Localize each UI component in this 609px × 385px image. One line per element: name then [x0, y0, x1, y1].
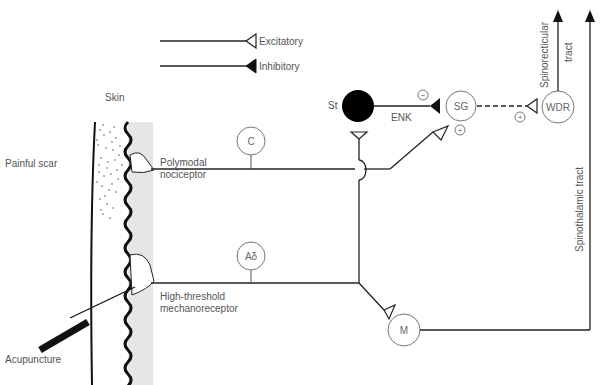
pain-pathway-diagram: Excitatory Inhibitory Skin Pai	[0, 0, 609, 385]
highthreshold-label-2: mechanoreceptor	[160, 303, 238, 314]
excitatory-synapse-icon	[246, 34, 256, 48]
fiber-crossover-hop	[359, 160, 366, 180]
skin-label: Skin	[105, 92, 124, 103]
neuron-m-label: M	[400, 325, 408, 336]
m-excitatory-synapse-icon	[384, 305, 395, 319]
polymodal-label-2: nociceptor	[160, 169, 207, 180]
spinothalamic-label: Spinothalamic tract	[574, 167, 585, 252]
neuron-st	[342, 90, 374, 122]
enk-inhibitory-synapse-icon	[430, 98, 440, 114]
spinothalamic-arrow-icon	[585, 10, 595, 22]
acupuncture-needle	[70, 287, 135, 318]
spinoreticular-label-1: Spinorecticular	[539, 21, 550, 88]
neuron-c-label: C	[247, 136, 254, 147]
polymodal-label-1: Polymodal	[160, 157, 207, 168]
scar-dots	[96, 124, 122, 218]
inhibitory-synapse-icon	[246, 59, 256, 73]
acupuncture-needle-handle	[40, 322, 88, 350]
spinoreticular-arrow-icon	[553, 10, 563, 22]
wdr-excitatory-synapse-icon	[527, 99, 537, 113]
scar-boundary-line	[91, 122, 95, 385]
legend-excitatory-label: Excitatory	[259, 36, 303, 47]
highthreshold-label-1: High-threshold	[160, 291, 225, 302]
neuron-wdr-label: WDR	[546, 102, 570, 113]
st-excitatory-synapse-icon	[351, 132, 367, 139]
acupuncture-label: Acupuncture	[5, 354, 62, 365]
legend-inhibitory-label: Inhibitory	[259, 61, 300, 72]
neuron-sg-label: SG	[454, 101, 469, 112]
c-fiber-excitatory-synapse-icon	[433, 126, 448, 140]
plus-sign-wdr: +	[518, 113, 523, 122]
legend: Excitatory Inhibitory	[160, 34, 303, 73]
spinoreticular-label-2: tract	[563, 42, 574, 62]
st-neuron: St ENK −	[328, 90, 440, 123]
enk-label: ENK	[391, 112, 412, 123]
neuron-adelta-label: Aδ	[245, 251, 258, 262]
painful-scar-label: Painful scar	[5, 158, 58, 169]
sg-neuron: SG + +	[446, 91, 537, 135]
st-label: St	[328, 100, 338, 111]
plus-sign-sg: +	[458, 126, 463, 135]
minus-sign: −	[421, 91, 426, 100]
